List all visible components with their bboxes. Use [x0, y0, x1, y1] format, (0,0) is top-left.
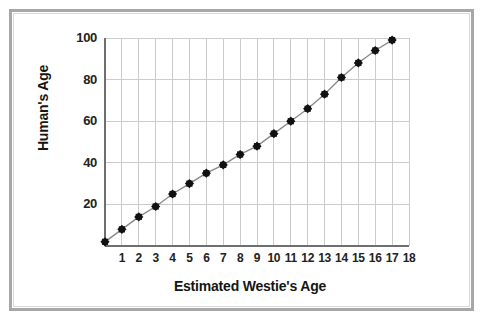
data-point-marker-core: [355, 60, 361, 66]
data-point-marker-core: [271, 131, 277, 137]
data-point-marker-core: [169, 191, 175, 197]
data-point-marker-core: [136, 214, 142, 220]
data-point-marker-core: [102, 239, 108, 245]
data-point-marker-core: [372, 47, 378, 53]
data-point-marker-core: [338, 74, 344, 80]
y-tick-label: 80: [63, 72, 97, 87]
data-point-marker-core: [389, 37, 395, 43]
data-point-marker-core: [237, 151, 243, 157]
x-tick-label: 18: [398, 251, 420, 265]
data-markers: [100, 35, 396, 246]
data-point-marker-core: [288, 118, 294, 124]
data-point-marker-core: [119, 226, 125, 232]
y-tick-label: 60: [63, 113, 97, 128]
data-point-marker-core: [321, 91, 327, 97]
chart-figure: Human's Age Estimated Westie's Age 20406…: [0, 0, 483, 330]
y-tick-label: 40: [63, 155, 97, 170]
chart-plot-container: Human's Age Estimated Westie's Age 20406…: [0, 0, 483, 330]
y-tick-label: 20: [63, 196, 97, 211]
y-tick-label: 100: [63, 30, 97, 45]
x-gridlines: [122, 38, 409, 246]
data-point-marker-core: [220, 162, 226, 168]
data-point-marker-core: [254, 143, 260, 149]
data-point-marker-core: [305, 106, 311, 112]
series-line: [105, 40, 392, 242]
data-point-marker-core: [203, 170, 209, 176]
data-point-marker-core: [153, 203, 159, 209]
data-point-marker-core: [186, 181, 192, 187]
data-line: [105, 40, 392, 242]
